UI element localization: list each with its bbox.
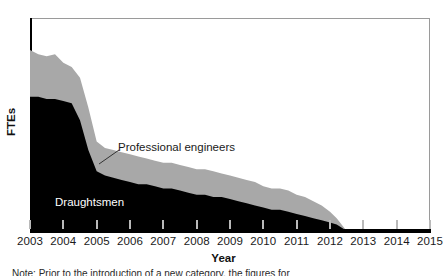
x-tick-label-2006: 2006 bbox=[117, 235, 143, 247]
x-tick-label-2003: 2003 bbox=[17, 235, 43, 247]
series-label-professional-engineers: Professional engineers bbox=[118, 141, 235, 153]
engineers-leader-line bbox=[98, 149, 120, 165]
series-label-draughtsmen: Draughtsmen bbox=[55, 196, 124, 208]
x-tick-label-2011: 2011 bbox=[284, 235, 309, 247]
x-tick-2004 bbox=[62, 220, 64, 229]
x-tick-2012 bbox=[329, 220, 331, 229]
x-tick-2006 bbox=[129, 220, 131, 229]
x-tick-label-2004: 2004 bbox=[50, 235, 76, 247]
x-axis-line bbox=[30, 229, 431, 233]
x-tick-label-2013: 2013 bbox=[350, 235, 376, 247]
x-tick-2003 bbox=[29, 220, 31, 229]
x-tick-2007 bbox=[162, 220, 164, 229]
stacked-area-chart-figure: 2003200420052006200720082009201020112012… bbox=[0, 0, 447, 276]
x-tick-2008 bbox=[196, 220, 198, 229]
x-axis-title: Year bbox=[0, 252, 447, 264]
x-tick-label-2012: 2012 bbox=[317, 235, 343, 247]
x-tick-2013 bbox=[362, 220, 364, 229]
x-tick-label-2008: 2008 bbox=[184, 235, 210, 247]
x-tick-label-2007: 2007 bbox=[150, 235, 176, 247]
x-tick-2010 bbox=[262, 220, 264, 229]
x-tick-2014 bbox=[396, 220, 398, 229]
figure-caption: Note: Prior to the introduction of a new… bbox=[12, 268, 290, 276]
x-tick-label-2005: 2005 bbox=[84, 235, 110, 247]
x-tick-label-2014: 2014 bbox=[384, 235, 410, 247]
x-tick-label-2015: 2015 bbox=[417, 235, 443, 247]
x-tick-2015 bbox=[429, 220, 431, 229]
x-tick-label-2009: 2009 bbox=[217, 235, 243, 247]
x-tick-label-2010: 2010 bbox=[250, 235, 276, 247]
x-tick-2011 bbox=[296, 220, 298, 229]
y-axis-title: FTEs bbox=[5, 99, 17, 145]
x-tick-2005 bbox=[96, 220, 98, 229]
x-tick-2009 bbox=[229, 220, 231, 229]
